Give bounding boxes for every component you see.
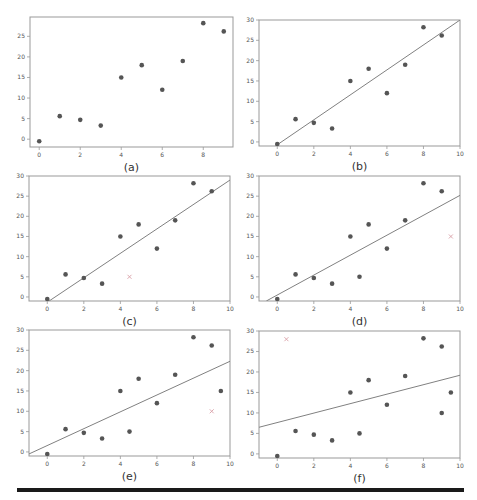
data-point [366, 378, 371, 383]
subplot-caption: (c) [122, 315, 137, 328]
subplot-e: 0246810051015202530(e) [16, 326, 234, 483]
data-point [330, 126, 335, 131]
x-tick-label: 4 [348, 462, 352, 469]
y-tick-label: 20 [17, 53, 25, 60]
regression-line [266, 195, 460, 301]
data-point [403, 218, 408, 223]
y-tick-label: 0 [20, 293, 24, 300]
y-tick-label: 0 [250, 293, 254, 300]
x-tick-label: 2 [312, 462, 316, 469]
y-tick-label: 20 [246, 57, 254, 64]
subplot-caption: (a) [124, 161, 139, 174]
data-point [312, 121, 317, 126]
data-point [348, 234, 353, 239]
x-tick-label: 8 [192, 460, 196, 467]
y-tick-label: 15 [16, 387, 24, 394]
y-tick-label: 10 [17, 94, 25, 101]
y-tick-label: 10 [246, 97, 254, 104]
data-point [63, 427, 68, 432]
x-tick-label: 10 [226, 305, 234, 312]
subplot-f: 0246810051015202530(f) [246, 327, 464, 485]
data-point [293, 272, 298, 277]
x-tick-label: 10 [226, 460, 234, 467]
data-point [357, 275, 362, 280]
x-tick-label: 10 [456, 150, 464, 157]
data-point [330, 438, 335, 443]
subplot-caption: (f) [353, 472, 365, 485]
y-tick-label: 15 [246, 388, 254, 395]
x-tick-label: 8 [192, 305, 196, 312]
data-point [357, 431, 362, 436]
x-tick-label: 0 [45, 460, 49, 467]
data-point [82, 276, 87, 281]
x-tick-label: 4 [348, 150, 352, 157]
data-point [82, 431, 87, 436]
y-tick-label: 5 [250, 273, 254, 280]
data-point [385, 91, 390, 96]
data-point [118, 234, 123, 239]
x-tick-label: 2 [82, 460, 86, 467]
y-tick-label: 10 [246, 253, 254, 260]
y-tick-label: 20 [16, 367, 24, 374]
y-tick-label: 25 [246, 347, 254, 354]
data-point [37, 139, 42, 144]
y-tick-label: 30 [246, 172, 254, 179]
data-point [63, 272, 68, 277]
x-tick-label: 2 [312, 305, 316, 312]
x-tick-label: 0 [37, 151, 41, 158]
data-point [136, 376, 141, 381]
data-point [136, 222, 141, 227]
y-tick-label: 25 [246, 192, 254, 199]
data-point [449, 390, 454, 395]
y-tick-label: 0 [250, 450, 254, 457]
data-point [421, 25, 426, 30]
data-point [98, 123, 103, 128]
x-tick-label: 0 [45, 305, 49, 312]
x-tick-label: 4 [119, 151, 123, 158]
data-point [139, 63, 144, 68]
removed-point-x-marker [210, 409, 214, 413]
y-tick-label: 20 [16, 212, 24, 219]
y-tick-label: 25 [16, 346, 24, 353]
data-point [421, 336, 426, 341]
subplot-caption: (e) [122, 470, 137, 483]
subplot-d: 0246810051015202530(d) [246, 172, 464, 328]
regression-line [29, 361, 230, 454]
x-tick-label: 0 [275, 462, 279, 469]
y-tick-label: 5 [250, 429, 254, 436]
x-tick-label: 10 [456, 305, 464, 312]
y-tick-label: 10 [16, 253, 24, 260]
removed-point-x-marker [284, 337, 288, 341]
y-tick-label: 30 [16, 172, 24, 179]
removed-point-x-marker [449, 234, 453, 238]
removed-point-x-marker [128, 275, 132, 279]
x-tick-label: 8 [422, 462, 426, 469]
y-tick-label: 25 [246, 36, 254, 43]
data-point [57, 114, 62, 119]
data-point [45, 452, 50, 457]
data-point [439, 344, 444, 349]
y-tick-label: 25 [16, 192, 24, 199]
axes-frame [259, 20, 460, 146]
data-point [293, 117, 298, 122]
x-tick-label: 6 [385, 462, 389, 469]
subplot-a: 024680510152025(a) [17, 17, 233, 174]
data-point [293, 429, 298, 434]
data-point [403, 62, 408, 67]
regression-line [49, 180, 230, 301]
data-point [312, 432, 317, 437]
x-tick-label: 6 [155, 460, 159, 467]
x-tick-label: 0 [275, 305, 279, 312]
regression-line [275, 20, 460, 146]
data-point [180, 59, 185, 64]
x-tick-label: 2 [82, 305, 86, 312]
data-point [385, 246, 390, 251]
y-tick-label: 30 [246, 16, 254, 23]
x-tick-label: 6 [155, 305, 159, 312]
subplot-b: 0246810051015202530(b) [246, 16, 464, 173]
data-point [45, 297, 50, 302]
x-tick-label: 2 [78, 151, 82, 158]
axes-frame [259, 176, 460, 301]
y-tick-label: 30 [16, 326, 24, 333]
data-point [421, 181, 426, 186]
